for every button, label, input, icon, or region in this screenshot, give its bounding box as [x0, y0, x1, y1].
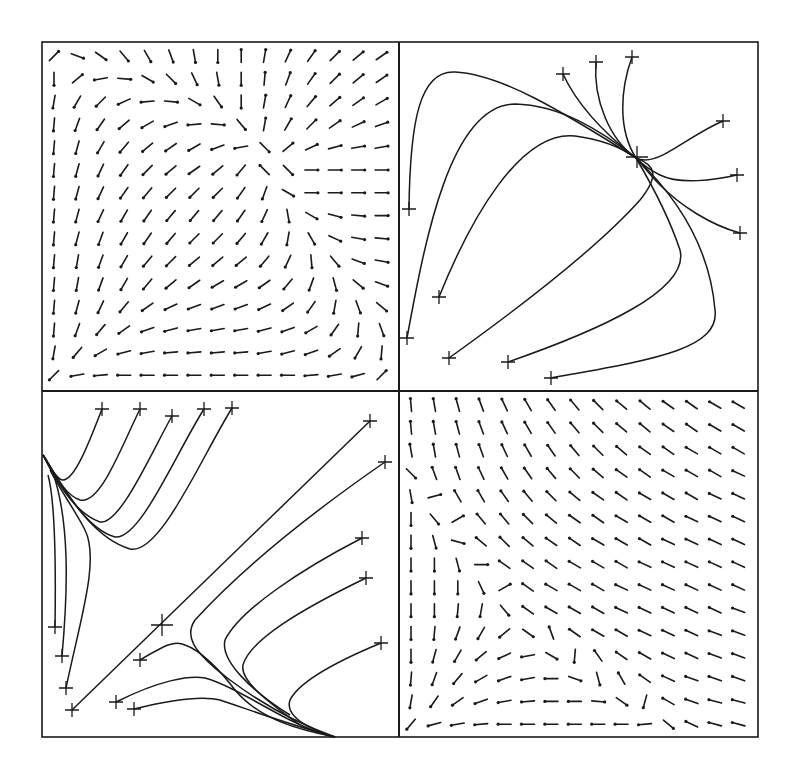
- direction-arrowhead-dot: [617, 671, 620, 674]
- direction-arrowhead-dot: [475, 658, 478, 661]
- direction-arrowhead-dot: [684, 651, 687, 654]
- direction-arrowhead-dot: [96, 220, 99, 223]
- direction-arrowhead-dot: [127, 59, 130, 62]
- direction-arrowhead-dot: [451, 704, 454, 707]
- direction-arrowhead-dot: [116, 374, 119, 377]
- direction-arrowhead-dot: [386, 237, 389, 240]
- direction-arrowhead-dot: [257, 330, 260, 333]
- direction-arrowhead-dot: [362, 120, 365, 123]
- direction-arrowhead-dot: [210, 307, 213, 310]
- direction-arrowhead-dot: [363, 215, 366, 218]
- direction-arrowhead-dot: [75, 266, 78, 269]
- direction-arrowhead-dot: [141, 309, 144, 312]
- direction-arrowhead-dot: [75, 289, 78, 292]
- direction-arrowhead-dot: [409, 615, 412, 618]
- direction-arrowhead-dot: [592, 468, 595, 471]
- direction-arrowhead-dot: [211, 264, 214, 267]
- direction-arrowhead-dot: [731, 400, 734, 403]
- direction-arrowhead-dot: [661, 537, 664, 540]
- direction-arrowhead-dot: [165, 196, 168, 199]
- direction-glyph: [352, 215, 365, 216]
- direction-arrowhead-dot: [233, 351, 236, 354]
- direction-arrowhead-dot: [96, 151, 99, 154]
- direction-arrowhead-dot: [340, 191, 343, 194]
- direction-arrowhead-dot: [264, 116, 267, 119]
- direction-arrowhead-dot: [615, 422, 618, 425]
- direction-glyph: [53, 278, 54, 291]
- direction-arrowhead-dot: [522, 490, 525, 493]
- direction-arrowhead-dot: [316, 168, 319, 171]
- direction-arrowhead-dot: [684, 606, 687, 609]
- direction-arrowhead-dot: [257, 352, 260, 355]
- direction-arrowhead-dot: [187, 172, 190, 175]
- direction-arrowhead-dot: [235, 264, 238, 267]
- direction-arrowhead-dot: [258, 286, 261, 289]
- direction-glyph: [522, 701, 535, 702]
- direction-arrowhead-dot: [427, 724, 430, 727]
- direction-arrowhead-dot: [96, 311, 99, 314]
- direction-arrowhead-dot: [314, 95, 317, 98]
- direction-arrowhead-dot: [411, 501, 414, 504]
- direction-arrowhead-dot: [409, 570, 412, 573]
- direction-glyph: [211, 352, 224, 353]
- direction-arrowhead-dot: [439, 493, 442, 496]
- direction-arrowhead-dot: [685, 446, 688, 449]
- direction-arrowhead-dot: [362, 50, 365, 53]
- direction-arrowhead-dot: [308, 289, 311, 292]
- direction-arrowhead-dot: [289, 94, 292, 97]
- direction-arrowhead-dot: [258, 164, 261, 167]
- direction-arrowhead-dot: [672, 727, 675, 730]
- direction-arrowhead-dot: [615, 468, 618, 471]
- direction-arrowhead-dot: [454, 638, 457, 641]
- direction-arrowhead-dot: [431, 660, 434, 663]
- direction-arrowhead-dot: [339, 144, 342, 147]
- direction-arrowhead-dot: [684, 560, 687, 563]
- direction-arrowhead-dot: [434, 546, 437, 549]
- direction-arrowhead-dot: [569, 398, 572, 401]
- direction-arrowhead-dot: [498, 536, 501, 539]
- direction-arrowhead-dot: [579, 679, 582, 682]
- direction-arrowhead-dot: [187, 149, 190, 152]
- direction-arrowhead-dot: [340, 168, 343, 171]
- direction-arrowhead-dot: [315, 217, 318, 220]
- direction-arrowhead-dot: [450, 724, 453, 727]
- direction-arrowhead-dot: [119, 288, 122, 291]
- direction-arrowhead-dot: [164, 308, 167, 311]
- direction-arrowhead-dot: [615, 445, 618, 448]
- direction-arrowhead-dot: [685, 422, 688, 425]
- direction-arrowhead-dot: [592, 422, 595, 425]
- direction-arrowhead-dot: [708, 400, 711, 403]
- direction-arrowhead-dot: [544, 559, 547, 562]
- direction-arrowhead-dot: [210, 374, 213, 377]
- direction-arrowhead-dot: [569, 467, 572, 470]
- direction-arrowhead-dot: [235, 173, 238, 176]
- direction-arrowhead-dot: [638, 673, 641, 676]
- direction-arrowhead-dot: [731, 721, 734, 724]
- direction-arrowhead-dot: [568, 605, 571, 608]
- direction-arrowhead-dot: [405, 728, 408, 731]
- direction-arrowhead-dot: [684, 629, 687, 632]
- direction-arrowhead-dot: [188, 264, 191, 267]
- direction-arrowhead-dot: [97, 289, 100, 292]
- direction-arrowhead-dot: [316, 191, 319, 194]
- direction-arrowhead-dot: [285, 243, 288, 246]
- direction-arrowhead-dot: [474, 680, 477, 683]
- direction-arrowhead-dot: [233, 147, 236, 150]
- direction-arrowhead-dot: [385, 309, 388, 312]
- direction-arrowhead-dot: [235, 242, 238, 245]
- direction-arrowhead-dot: [142, 265, 145, 268]
- direction-arrowhead-dot: [363, 262, 366, 265]
- direction-arrowhead-dot: [52, 198, 55, 201]
- direction-arrowhead-dot: [97, 243, 100, 246]
- direction-arrowhead-dot: [429, 705, 432, 708]
- direction-arrowhead-dot: [163, 330, 166, 333]
- direction-arrowhead-dot: [69, 375, 72, 378]
- direction-arrowhead-dot: [244, 128, 247, 131]
- direction-arrowhead-dot: [731, 698, 734, 701]
- direction-arrowhead-dot: [437, 522, 440, 525]
- direction-arrowhead-dot: [233, 329, 236, 332]
- direction-arrowhead-dot: [520, 678, 523, 681]
- direction-arrowhead-dot: [260, 242, 263, 245]
- direction-arrowhead-dot: [189, 219, 192, 222]
- direction-arrowhead-dot: [52, 175, 55, 178]
